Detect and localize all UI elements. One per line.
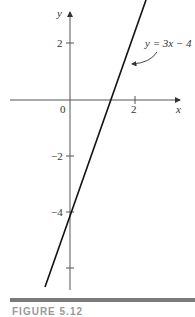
y-tick-label-neg4: −4 (51, 206, 63, 218)
y-axis-label: y (56, 7, 62, 19)
equation-label: y = 3x − 4 (144, 37, 192, 49)
caption-rule (10, 298, 195, 302)
y-tick-label-neg2: −2 (51, 150, 63, 162)
figure-caption: FIGURE 5.12 (12, 306, 83, 317)
x-tick-label-2: 2 (131, 103, 137, 115)
origin-label: 0 (60, 103, 66, 115)
x-axis-label: x (175, 103, 181, 115)
y-tick-label-2: 2 (57, 37, 63, 49)
annotation-arrow-icon (132, 52, 157, 64)
